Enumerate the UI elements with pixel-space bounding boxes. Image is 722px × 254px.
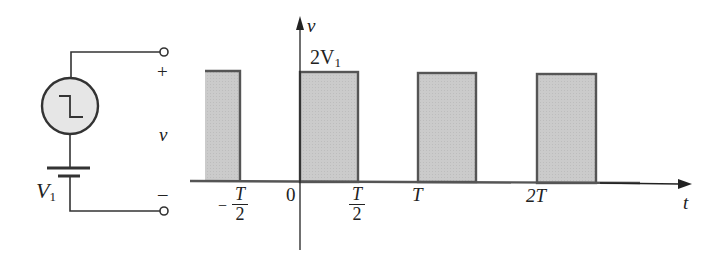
level-label-main: 2V (310, 46, 334, 68)
bottom-wire (70, 176, 161, 211)
battery-label-sub: 1 (49, 189, 56, 204)
y-axis-label: v (307, 16, 315, 35)
tick-half-num: T (349, 185, 365, 203)
minus-terminal (160, 207, 168, 215)
plus-label: + (157, 62, 168, 81)
battery-label-main: V (36, 178, 49, 203)
plus-terminal (160, 48, 168, 56)
circuit (42, 48, 168, 215)
tick-zero: 0 (286, 185, 296, 204)
level-label: 2V1 (310, 47, 341, 69)
tick-neg-half-num: T (232, 185, 248, 203)
pulse-2 (418, 73, 476, 182)
x-axis-arrow-icon (678, 179, 692, 189)
pulse-3 (537, 74, 596, 183)
tick-neg-half: T2 (232, 185, 248, 224)
minus-label: – (158, 184, 168, 203)
waveform (190, 71, 640, 183)
y-axis-arrow-icon (296, 16, 304, 30)
tick-half: T2 (349, 185, 365, 224)
tick-2T: 2T (526, 186, 546, 205)
x-axis-label: t (683, 193, 688, 212)
battery-label: V1 (36, 180, 56, 203)
tick-neg-half-den: 2 (232, 204, 248, 223)
tick-neg-sign: − (218, 198, 227, 214)
top-wire (71, 52, 164, 78)
tick-half-den: 2 (349, 204, 365, 223)
pulse-1 (300, 72, 358, 182)
level-label-sub: 1 (334, 55, 341, 70)
tick-T: T (412, 185, 423, 204)
output-voltage-label: v (159, 125, 167, 144)
